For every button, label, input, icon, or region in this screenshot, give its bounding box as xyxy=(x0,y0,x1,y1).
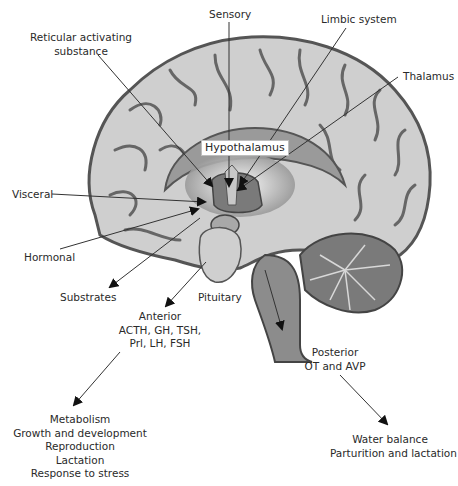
label-substrates: Substrates xyxy=(60,291,116,305)
label-sensory: Sensory xyxy=(209,8,251,22)
label-visceral: Visceral xyxy=(12,188,53,202)
label-thalamus: Thalamus xyxy=(403,70,454,84)
cerebellum xyxy=(300,234,402,313)
label-hormonal: Hormonal xyxy=(24,251,75,265)
anterior-title: Anterior xyxy=(110,310,210,324)
posterior-title: Posterior xyxy=(290,346,380,360)
label-reticular-activating-substance: Reticular activating substance xyxy=(26,31,136,58)
anterior-effects-list: Metabolism Growth and development Reprod… xyxy=(10,413,150,481)
posterior-pituitary-hormones: Posterior OT and AVP xyxy=(290,346,380,373)
label-pituitary: Pituitary xyxy=(198,291,242,305)
label-limbic-system: Limbic system xyxy=(321,13,397,27)
posterior-effects-list: Water balance Parturition and lactation xyxy=(330,433,450,460)
anterior-pituitary-hormones: Anterior ACTH, GH, TSH, Prl, LH, FSH xyxy=(110,310,210,351)
label-hypothalamus: Hypothalamus xyxy=(201,140,289,156)
